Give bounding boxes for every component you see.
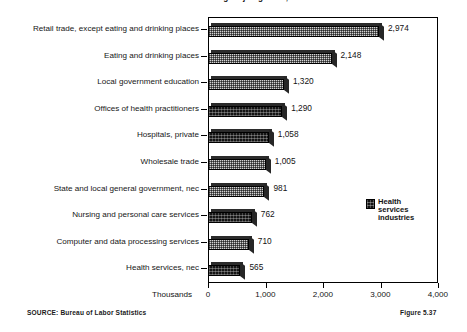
category-tick: [201, 135, 207, 136]
bar-value-label: 1,005: [275, 157, 296, 166]
bar-side-face: [249, 236, 254, 254]
category-label: Hospitals, private: [137, 130, 199, 139]
bar-row: Retail trade, except eating and drinking…: [0, 17, 467, 44]
x-axis-tick: [381, 283, 382, 288]
category-label: Wholesale trade: [141, 157, 200, 166]
bar: [208, 183, 269, 197]
category-tick: [201, 268, 207, 269]
bar-side-face: [264, 183, 269, 201]
bar-value-label: 762: [261, 210, 275, 219]
bar-front-face: [208, 212, 252, 223]
bar-side-face: [282, 103, 287, 121]
bar-row: Offices of health practitioners1,290: [0, 97, 467, 124]
x-axis-tick: [208, 283, 209, 288]
category-tick: [201, 242, 207, 243]
bar: [208, 262, 245, 276]
legend-label: Health services industries: [378, 198, 426, 223]
bar-side-face: [284, 76, 289, 94]
bar-side-face: [332, 50, 337, 68]
bar: [208, 236, 254, 250]
category-tick: [201, 56, 207, 57]
chart-title: Industries with the largest job growth, …: [0, 0, 467, 2]
bar-side-face: [240, 262, 245, 280]
bar-row: Eating and drinking places2,148: [0, 44, 467, 71]
bar-front-face: [208, 106, 282, 117]
bar-value-label: 1,290: [291, 104, 312, 113]
x-axis-tick: [323, 283, 324, 288]
x-axis-tick-label: 1,000: [255, 290, 275, 299]
bar-value-label: 981: [273, 184, 287, 193]
bar-row: Wholesale trade1,005: [0, 150, 467, 177]
category-label: Nursing and personal care services: [72, 210, 199, 219]
bar-value-label: 710: [258, 237, 272, 246]
bar-front-face: [208, 186, 264, 197]
x-axis-tick: [438, 283, 439, 288]
bar-front-face: [208, 132, 269, 143]
bar: [208, 209, 257, 223]
bar-value-label: 1,058: [278, 130, 299, 139]
category-label: Computer and data processing services: [56, 237, 199, 246]
category-label: State and local general government, nec: [54, 184, 199, 193]
legend-swatch-health-services: [366, 199, 375, 209]
category-tick: [201, 29, 207, 30]
bar-value-label: 565: [249, 263, 263, 272]
bar-row: Local government education1,320: [0, 70, 467, 97]
bar-value-label: 2,148: [341, 51, 362, 60]
bar-front-face: [208, 79, 284, 90]
chart-legend: Health services industries: [366, 198, 426, 223]
bar-front-face: [208, 239, 249, 250]
bar-row: Hospitals, private1,058: [0, 123, 467, 150]
bar-side-face: [269, 129, 274, 147]
figure-number: Figure 5.37: [400, 309, 436, 316]
bar-side-face: [266, 156, 271, 174]
x-axis-tick-label: 0: [206, 290, 211, 299]
x-axis-tick: [266, 283, 267, 288]
category-label: Eating and drinking places: [104, 51, 199, 60]
bar: [208, 50, 337, 64]
bar: [208, 103, 287, 117]
bar-value-label: 1,320: [293, 77, 314, 86]
x-axis-tick-label: 2,000: [313, 290, 333, 299]
x-axis-tick-label: 4,000: [428, 290, 448, 299]
category-label: Retail trade, except eating and drinking…: [33, 24, 199, 33]
category-tick: [201, 189, 207, 190]
bar-row: Health services, nec565: [0, 256, 467, 283]
bar-front-face: [208, 53, 332, 64]
bar: [208, 76, 289, 90]
bar-front-face: [208, 159, 266, 170]
bar: [208, 129, 274, 143]
category-tick: [201, 82, 207, 83]
bar-value-label: 2,974: [388, 24, 409, 33]
bar-side-face: [379, 23, 384, 41]
x-axis-tick-label: 3,000: [370, 290, 390, 299]
source-note: SOURCE: Bureau of Labor Statistics: [27, 309, 146, 316]
bar-row: Computer and data processing services710: [0, 230, 467, 257]
bar: [208, 23, 384, 37]
bar-front-face: [208, 265, 240, 276]
x-axis-title: Thousands: [152, 290, 192, 299]
category-label: Local government education: [97, 77, 199, 86]
bar-front-face: [208, 26, 379, 37]
category-tick: [201, 162, 207, 163]
bar: [208, 156, 271, 170]
category-tick: [201, 109, 207, 110]
category-label: Health services, nec: [126, 263, 199, 272]
bar-side-face: [252, 209, 257, 227]
category-label: Offices of health practitioners: [94, 104, 199, 113]
category-tick: [201, 215, 207, 216]
